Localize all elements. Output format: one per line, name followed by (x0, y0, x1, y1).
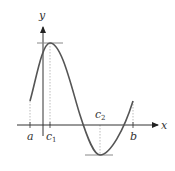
svg-text:1: 1 (52, 136, 56, 144)
label-c1: c 1 (46, 130, 56, 144)
y-axis-label: y (38, 9, 46, 22)
label-c2: c 2 (95, 108, 105, 122)
label-b: b (130, 130, 137, 143)
graph-diagram: y x a c 1 c 2 b (0, 0, 175, 171)
label-a: a (27, 130, 34, 143)
svg-text:2: 2 (101, 114, 105, 122)
x-axis-label: x (161, 119, 168, 132)
